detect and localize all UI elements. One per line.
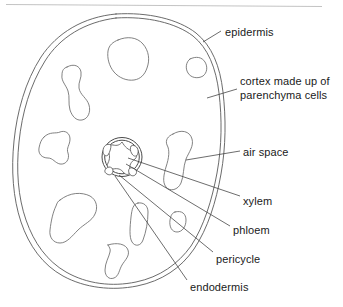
- air-space-below-stele: [130, 203, 148, 245]
- label-pericycle: pericycle: [216, 253, 260, 267]
- root-diagram-svg: [0, 0, 343, 307]
- label-cortex: cortex made up ofparenchyma cells: [240, 75, 330, 102]
- leader-air-space: [186, 151, 240, 160]
- root-cross-section-figure: epidermis cortex made up ofparenchyma ce…: [0, 0, 343, 307]
- phloem-patch-lower-left: [105, 167, 113, 175]
- air-space-right-peanut: [164, 131, 193, 190]
- phloem-patch-lower-right: [129, 168, 137, 176]
- stele-group: [102, 138, 142, 177]
- label-air-space: air space: [243, 146, 289, 160]
- air-space-upper-left: [62, 65, 90, 120]
- air-space-upper-right: [186, 57, 206, 77]
- label-cortex-line1: cortex made up of: [240, 75, 330, 87]
- label-cortex-line2: parenchyma cells: [240, 89, 327, 101]
- air-space-mid-left: [39, 131, 70, 164]
- label-endodermis: endodermis: [190, 281, 248, 295]
- label-xylem: xylem: [243, 195, 272, 209]
- label-phloem: phloem: [233, 224, 270, 238]
- top-divider-rule: [6, 5, 322, 7]
- leader-cortex: [207, 89, 237, 98]
- leader-epidermis: [203, 31, 221, 42]
- air-space-bottom-center: [105, 244, 128, 279]
- air-space-lower-left: [50, 193, 97, 243]
- air-space-lower-right: [170, 211, 186, 232]
- label-epidermis: epidermis: [225, 26, 274, 40]
- air-space-upper-center: [108, 38, 149, 81]
